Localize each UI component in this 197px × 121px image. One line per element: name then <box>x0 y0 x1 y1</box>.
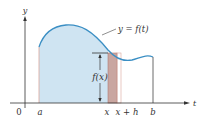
height-label: f(x) <box>91 72 108 82</box>
tick-label-x-plus-h: x + h <box>116 107 139 117</box>
area-under-curve <box>39 25 108 103</box>
integral-area-diagram: f(x) y = f(t) y t 0 a x x + h b <box>0 0 197 121</box>
tick-label-x: x <box>105 107 110 117</box>
origin-label: 0 <box>16 107 21 117</box>
curve-label: y = f(t) <box>117 24 149 34</box>
y-axis-arrow-icon <box>23 16 27 21</box>
y-axis-label: y <box>22 6 28 15</box>
tick-label-b: b <box>150 107 155 117</box>
curve-label-leader <box>102 29 116 35</box>
t-axis-arrow-icon <box>184 101 190 105</box>
t-axis-label: t <box>193 99 197 108</box>
tick-label-a: a <box>37 107 42 117</box>
strip-highlight <box>117 53 121 103</box>
strip-rectangle <box>108 53 117 103</box>
